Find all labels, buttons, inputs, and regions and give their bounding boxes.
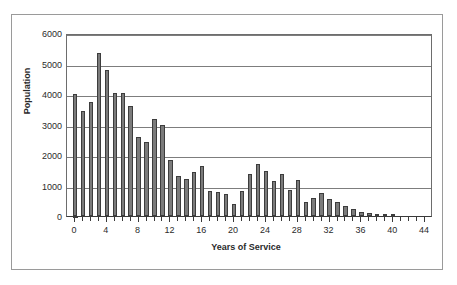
x-axis-tick <box>376 217 377 221</box>
x-axis-tick <box>352 217 353 221</box>
bar <box>375 214 379 216</box>
bar <box>160 125 164 216</box>
bar <box>176 176 180 216</box>
x-axis-tick-label: 28 <box>282 225 312 236</box>
y-axis-tick-label: 1000 <box>16 183 62 192</box>
x-axis-tick <box>154 217 155 221</box>
x-axis-tick-label: 16 <box>186 225 216 236</box>
x-axis-tick <box>74 217 75 222</box>
x-axis-tick-labels: 048121620242832364044 <box>66 225 432 239</box>
bar <box>343 206 347 216</box>
bar <box>192 172 196 216</box>
bar-series <box>67 35 431 216</box>
x-axis-tick <box>225 217 226 221</box>
bar <box>216 192 220 216</box>
x-axis-tick <box>384 217 385 221</box>
y-axis-tick-labels: 6000500040003000200010000 <box>12 34 62 217</box>
bar <box>136 137 140 216</box>
x-axis-tick <box>400 217 401 221</box>
bar <box>89 102 93 216</box>
x-axis-tick <box>209 217 210 221</box>
x-axis-tick <box>161 217 162 221</box>
x-axis-title: Years of Service <box>60 242 432 252</box>
bar <box>121 93 125 216</box>
bar <box>335 202 339 216</box>
x-axis-ticks <box>66 217 432 223</box>
x-axis-tick <box>106 217 107 222</box>
x-axis-tick <box>249 217 250 221</box>
x-axis-tick-label: 4 <box>91 225 121 236</box>
x-axis-tick-label: 32 <box>314 225 344 236</box>
x-axis-tick <box>313 217 314 221</box>
bar <box>81 111 85 216</box>
bar <box>391 214 395 216</box>
x-axis-tick <box>241 217 242 221</box>
x-axis-tick <box>368 217 369 221</box>
x-axis-tick <box>337 217 338 221</box>
x-axis-tick-label: 20 <box>218 225 248 236</box>
x-axis-tick <box>424 217 425 222</box>
x-axis-tick <box>344 217 345 221</box>
x-axis-tick-label: 36 <box>345 225 375 236</box>
x-axis-tick <box>360 217 361 222</box>
x-axis-tick <box>82 217 83 221</box>
x-axis-tick <box>233 217 234 222</box>
bar <box>152 119 156 216</box>
x-axis-tick-label: 24 <box>250 225 280 236</box>
x-axis-tick <box>169 217 170 222</box>
x-axis-tick <box>138 217 139 222</box>
bar <box>280 174 284 216</box>
x-axis-tick <box>130 217 131 221</box>
bar <box>319 193 323 216</box>
x-axis-tick <box>392 217 393 222</box>
plot-area <box>66 34 432 217</box>
y-axis-tick-label: 5000 <box>16 61 62 70</box>
bar <box>200 166 204 216</box>
x-axis-tick <box>297 217 298 222</box>
bar <box>296 180 300 216</box>
x-axis-tick-label: 40 <box>377 225 407 236</box>
x-axis-tick-label: 8 <box>123 225 153 236</box>
x-axis-tick <box>416 217 417 221</box>
bar <box>168 160 172 216</box>
x-axis-tick <box>146 217 147 221</box>
x-axis-tick <box>257 217 258 221</box>
x-axis-tick <box>185 217 186 221</box>
bar <box>304 202 308 216</box>
x-axis-tick <box>193 217 194 221</box>
bar <box>367 213 371 216</box>
x-axis-tick <box>281 217 282 221</box>
bar <box>311 198 315 216</box>
bar <box>128 106 132 216</box>
bar <box>208 191 212 216</box>
x-axis-tick <box>305 217 306 221</box>
x-axis-tick <box>408 217 409 221</box>
bar <box>232 204 236 216</box>
y-axis-tick-label: 0 <box>16 213 62 222</box>
bar <box>144 142 148 216</box>
bar <box>248 174 252 216</box>
bar <box>184 179 188 217</box>
x-axis-tick <box>98 217 99 221</box>
bar <box>97 53 101 216</box>
x-axis-tick <box>329 217 330 222</box>
x-axis-tick <box>114 217 115 221</box>
bar <box>272 181 276 216</box>
y-axis-tick-label: 4000 <box>16 91 62 100</box>
y-axis-tick-label: 3000 <box>16 122 62 131</box>
x-axis-tick <box>217 217 218 221</box>
bar <box>224 194 228 216</box>
x-axis-tick <box>289 217 290 221</box>
x-axis-tick <box>321 217 322 221</box>
chart-page: Population 6000500040003000200010000 048… <box>0 0 457 285</box>
bar <box>327 199 331 216</box>
bar <box>264 171 268 216</box>
bar <box>73 94 77 216</box>
y-axis-tick-label: 6000 <box>16 30 62 39</box>
bar <box>256 164 260 216</box>
bar <box>351 209 355 216</box>
bar <box>113 93 117 216</box>
bar <box>383 214 387 216</box>
bar <box>359 212 363 216</box>
x-axis-tick <box>122 217 123 221</box>
